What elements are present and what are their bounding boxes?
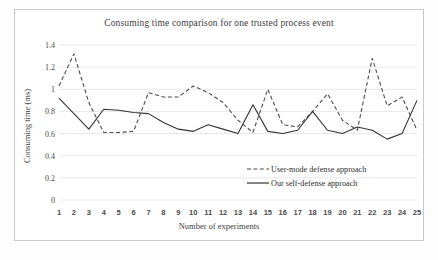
- legend-item-user-mode: User-mode defense approach: [247, 162, 417, 176]
- legend-label-user-mode: User-mode defense approach: [271, 165, 366, 174]
- x-tick-label: 25: [408, 208, 426, 217]
- legend-item-self-defense: Our self-defense approach: [247, 176, 417, 190]
- chart-legend: User-mode defense approach Our self-defe…: [247, 162, 417, 190]
- legend-label-self-defense: Our self-defense approach: [271, 179, 357, 188]
- chart-figure: Consuming time comparison for one truste…: [0, 0, 438, 260]
- x-axis-ticks: 1234567891011121314151617181920212223242…: [15, 203, 425, 217]
- chart-plot-frame: Consuming time comparison for one truste…: [14, 9, 424, 241]
- x-axis-label: Number of experiments: [15, 221, 423, 231]
- series-user-mode-defense: [59, 54, 417, 133]
- solid-line-icon: [247, 179, 269, 187]
- dashed-line-icon: [247, 165, 269, 173]
